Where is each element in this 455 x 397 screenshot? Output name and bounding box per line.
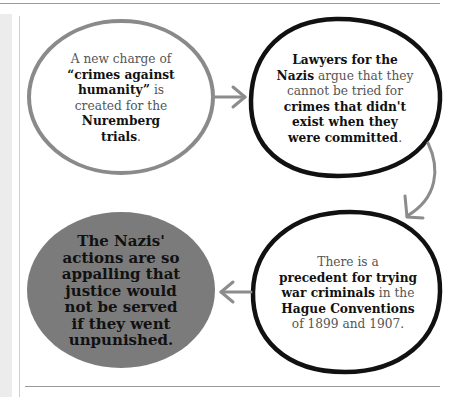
node-justice-text: The Nazis' actions are so appalling that… xyxy=(40,233,202,349)
node-lawyers-text: Lawyers for the Nazis argue that they ca… xyxy=(262,53,428,146)
node-charge-text: A new charge of “crimes against humanity… xyxy=(40,52,202,145)
arrow-left-icon xyxy=(221,282,251,302)
arrow-right-icon xyxy=(213,87,245,107)
bold-fragment: humanity” xyxy=(78,83,150,97)
node-precedent-text: There is a precedent for trying war crim… xyxy=(262,255,434,333)
